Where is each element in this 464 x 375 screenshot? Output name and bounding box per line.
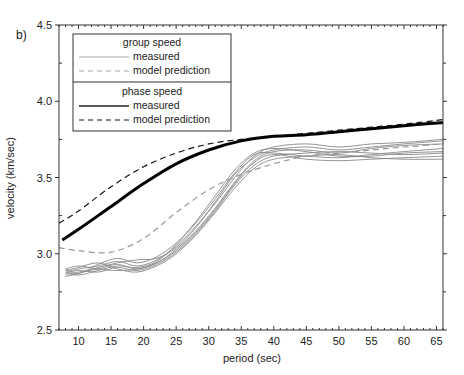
series-line — [66, 152, 444, 274]
y-tick-label: 2.5 — [37, 324, 52, 336]
series-line — [66, 148, 444, 275]
y-tick-label: 3.0 — [37, 248, 52, 260]
x-tick-label: 55 — [365, 335, 377, 347]
legend-group-title: group speed — [123, 36, 182, 48]
series-line — [66, 155, 444, 271]
legend-group-model-label: model prediction — [133, 64, 210, 76]
x-tick-label: 65 — [430, 335, 442, 347]
legend-group-measured-label: measured — [133, 50, 180, 62]
x-tick-label: 45 — [300, 335, 312, 347]
series-layer — [59, 120, 443, 277]
x-tick-label: 30 — [203, 335, 215, 347]
series-line — [66, 139, 444, 272]
series-line — [66, 149, 444, 274]
x-tick-label: 10 — [72, 335, 84, 347]
x-axis-label: period (sec) — [223, 352, 281, 364]
panel-label: b) — [16, 28, 27, 42]
series-line — [66, 155, 444, 273]
x-tick-label: 20 — [137, 335, 149, 347]
x-tick-label: 25 — [170, 335, 182, 347]
x-tick-label: 40 — [268, 335, 280, 347]
y-tick-label: 4.5 — [37, 19, 52, 31]
y-axis-label: velocity (km/sec) — [4, 137, 16, 219]
y-tick-label: 4.0 — [37, 95, 52, 107]
x-tick-label: 35 — [235, 335, 247, 347]
x-tick-label: 60 — [398, 335, 410, 347]
legend: group speed measured model prediction ph… — [73, 34, 231, 131]
legend-phase-title: phase speed — [122, 85, 182, 97]
legend-phase-model-label: model prediction — [133, 113, 210, 125]
x-tick-label: 50 — [333, 335, 345, 347]
velocity-period-chart: b) 101520253035404550556065 2.53.03.54.0… — [0, 0, 464, 375]
series-line — [66, 144, 444, 275]
y-tick-label: 3.5 — [37, 172, 52, 184]
legend-phase-measured-label: measured — [133, 99, 180, 111]
x-tick-label: 15 — [105, 335, 117, 347]
